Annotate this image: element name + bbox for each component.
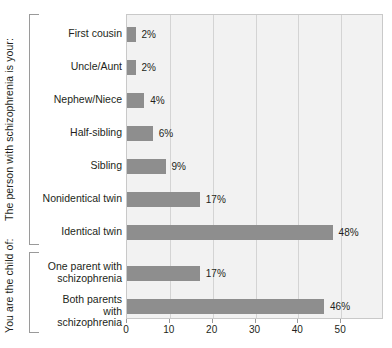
bar-value-label: 2% [142, 27, 156, 42]
bar-value-label: 17% [206, 192, 226, 207]
x-tick-label: 20 [206, 324, 217, 335]
category-label: Nephew/Niece [42, 94, 122, 106]
gridline-50 [341, 15, 342, 318]
x-tick-label: 0 [123, 324, 129, 335]
x-tick-mark [169, 319, 170, 323]
category-axis: First cousinUncle/AuntNephew/NieceHalf-s… [42, 14, 122, 319]
category-label: First cousin [42, 28, 122, 40]
group-bracket-0 [29, 14, 39, 245]
bar [127, 266, 200, 281]
bar [127, 93, 144, 108]
x-tick-mark [126, 319, 127, 323]
plot-area: 2%2%4%6%9%17%48%17%46% [126, 14, 383, 319]
x-tick-mark [297, 319, 298, 323]
gridline-30 [256, 15, 257, 318]
category-label: Uncle/Aunt [42, 61, 122, 73]
x-tick-label: 50 [335, 324, 346, 335]
category-label: Identical twin [42, 226, 122, 238]
group-bracket-1 [29, 252, 39, 333]
category-label: Both parents with schizophrenia [42, 294, 122, 329]
bar-value-label: 9% [172, 159, 186, 174]
category-label: One parent with schizophrenia [42, 261, 122, 284]
x-tick-label: 30 [249, 324, 260, 335]
bar-value-label: 48% [339, 225, 359, 240]
x-axis: 01020304050 [126, 319, 383, 341]
bar [127, 225, 333, 240]
x-tick-mark [340, 319, 341, 323]
bar [127, 126, 153, 141]
gridline-40 [298, 15, 299, 318]
category-label: Sibling [42, 160, 122, 172]
x-tick-label: 10 [163, 324, 174, 335]
bar [127, 159, 166, 174]
bar-value-label: 4% [150, 93, 164, 108]
x-tick-label: 40 [292, 324, 303, 335]
x-tick-mark [255, 319, 256, 323]
bar [127, 299, 324, 314]
bar [127, 192, 200, 207]
bar [127, 60, 136, 75]
category-label: Nonidentical twin [42, 193, 122, 205]
category-label: Half-sibling [42, 127, 122, 139]
bar [127, 27, 136, 42]
bar-value-label: 17% [206, 266, 226, 281]
bar-value-label: 2% [142, 60, 156, 75]
bar-value-label: 6% [159, 126, 173, 141]
bar-chart: The person with schizophrenia is your: Y… [0, 0, 392, 348]
bar-value-label: 46% [330, 299, 350, 314]
x-tick-mark [212, 319, 213, 323]
group-axis-title-0: The person with schizophrenia is your: [4, 14, 15, 245]
group-axis-title-1: You are the child of: [4, 252, 15, 333]
